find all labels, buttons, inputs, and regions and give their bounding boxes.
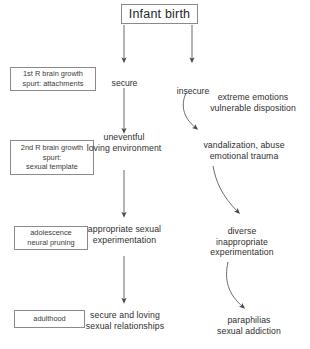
connector-vandalization-to-diverse [213, 166, 238, 212]
node-extreme-emotions-vulnerable-disposition: extreme emotions vulnerable disposition [197, 92, 309, 113]
node-uneventful-loving-environment: uneventful loving environment [68, 132, 180, 153]
node-diverse-inappropriate-experimentation: diverse inappropriate experimentation [197, 226, 287, 258]
flowchart-diagram: Infant birth secure insecure 1st R brain… [0, 0, 310, 349]
stage-box-first-brain-growth-spurt: 1st R brain growth spurt: attachments [10, 67, 96, 91]
branch-label-secure: secure [106, 78, 143, 88]
node-vandalization-abuse-emotional-trauma: vandalization, abuse emotional trauma [188, 140, 300, 161]
node-secure-loving-relationships: secure and loving sexual relationships [70, 310, 180, 331]
root-node-infant-birth: Infant birth [121, 4, 198, 24]
node-appropriate-sexual-experimentation: appropriate sexual experimentation [72, 224, 177, 245]
connector-insecure-to-vandalization [183, 93, 196, 128]
connector-diverse-to-paraphilias [227, 262, 243, 307]
node-paraphilias-sexual-addiction: paraphilias sexual addiction [196, 315, 302, 336]
